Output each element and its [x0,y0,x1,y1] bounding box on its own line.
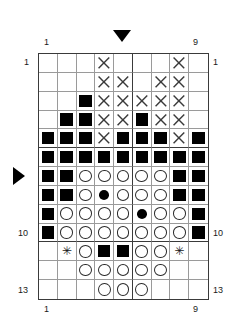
open-circle-icon [95,280,113,299]
open-circle-icon [133,242,151,260]
chart-cell-r3-c4 [95,92,114,111]
open-circle-icon [114,261,132,279]
open-circle-icon [95,224,113,242]
open-circle-icon [95,205,113,223]
chart-cell-r9-c2 [58,205,77,224]
x-cross-icon [114,111,132,129]
open-circle-icon [77,261,95,279]
row-label-right-13: 13 [213,286,223,295]
chart-cell-r8-c7 [152,186,171,205]
column-label-bottom-right: 9 [193,305,198,314]
asterisk-icon: ✳ [170,242,188,260]
chart-cell-r5-c2 [58,129,77,148]
chart-cell-r4-c2 [58,111,77,130]
chart-cell-r1-c8 [170,54,189,73]
open-circle-icon [170,205,188,223]
chart-cell-r6-c1 [39,148,58,167]
filled-square-icon [133,129,151,147]
open-circle-icon [152,205,170,223]
stitch-chart: 1 9 1 9 1 10 13 1 10 13 ✳✳ [0,0,230,334]
chart-cell-r2-c3 [77,73,96,92]
open-circle-icon [133,186,151,204]
open-circle-icon [152,261,170,279]
open-circle-icon [114,167,132,185]
open-circle-icon [114,224,132,242]
chart-cell-r2-c7 [152,73,171,92]
chart-cell-r8-c8 [170,186,189,205]
chart-cell-r8-c5 [114,186,133,205]
chart-cell-r10-c5 [114,224,133,243]
chart-cell-r4-c8 [170,111,189,130]
chart-cell-r3-c5 [114,92,133,111]
chart-cell-r6-c5 [114,148,133,167]
chart-cell-r13-c2 [58,280,77,299]
chart-cell-r4-c6 [133,111,152,130]
chart-cell-r8-c9 [189,186,208,205]
chart-cell-r6-c9 [189,148,208,167]
filled-square-icon [58,148,76,166]
filled-square-icon [77,111,95,129]
open-circle-icon [77,242,95,260]
chart-cell-r1-c6 [133,54,152,73]
open-circle-icon [133,167,151,185]
chart-cell-r2-c2 [58,73,77,92]
chart-cell-r2-c5 [114,73,133,92]
chart-cell-r4-c4 [95,111,114,130]
chart-cell-r13-c9 [189,280,208,299]
chart-cell-r6-c7 [152,148,171,167]
x-cross-icon [133,92,151,110]
row-label-right-10: 10 [213,229,223,238]
chart-cell-r11-c8: ✳ [170,242,189,261]
chart-cell-r11-c7 [152,242,171,261]
filled-square-icon [39,167,57,185]
chart-cell-r2-c9 [189,73,208,92]
chart-cell-r12-c4 [95,261,114,280]
open-circle-icon [77,167,95,185]
chart-cell-r10-c6 [133,224,152,243]
chart-cell-r7-c4 [95,167,114,186]
open-circle-icon [77,205,95,223]
chart-cell-r10-c1 [39,224,58,243]
chart-cell-r7-c1 [39,167,58,186]
chart-cell-r13-c7 [152,280,171,299]
chart-cell-r6-c6 [133,148,152,167]
open-circle-icon [152,186,170,204]
chart-cell-r5-c3 [77,129,96,148]
chart-cell-r11-c2: ✳ [58,242,77,261]
chart-cell-r12-c1 [39,261,58,280]
chart-cell-r13-c8 [170,280,189,299]
chart-cell-r5-c4 [95,129,114,148]
x-cross-icon [170,129,188,147]
filled-square-icon [39,205,57,223]
filled-square-icon [133,111,151,129]
chart-cell-r5-c8 [170,129,189,148]
chart-cell-r1-c9 [189,54,208,73]
open-circle-icon [114,280,132,299]
filled-square-icon [170,148,188,166]
chart-cell-r3-c3 [77,92,96,111]
x-cross-icon [95,54,113,72]
chart-cell-r12-c2 [58,261,77,280]
chart-cell-r9-c8 [170,205,189,224]
x-cross-icon [114,73,132,91]
x-cross-icon [95,92,113,110]
chart-cell-r13-c3 [77,280,96,299]
chart-cell-r4-c9 [189,111,208,130]
open-circle-icon [77,224,95,242]
chart-cell-r11-c9 [189,242,208,261]
filled-square-icon [58,167,76,185]
chart-cell-r1-c7 [152,54,171,73]
open-circle-icon [133,224,151,242]
chart-cell-r11-c5 [114,242,133,261]
filled-square-icon [58,129,76,147]
column-label-top-left: 1 [44,38,49,47]
filled-square-icon [39,186,57,204]
chart-cell-r8-c3 [77,186,96,205]
filled-square-icon [95,148,113,166]
chart-cell-r5-c9 [189,129,208,148]
chart-cell-r12-c7 [152,261,171,280]
triangle-right-icon [13,167,25,185]
filled-square-icon [77,148,95,166]
chart-cell-r12-c9 [189,261,208,280]
chart-cell-r2-c6 [133,73,152,92]
